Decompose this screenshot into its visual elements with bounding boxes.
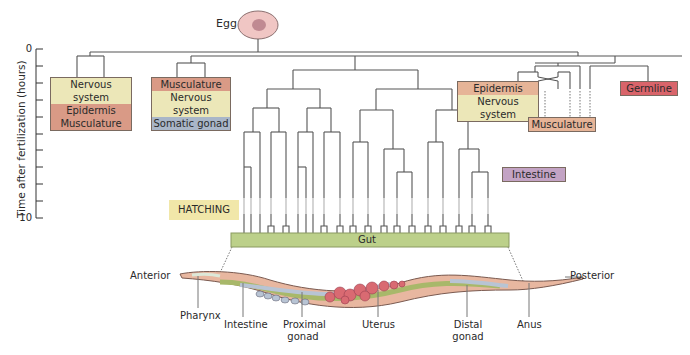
lineage-box-intestine: Intestine bbox=[502, 167, 566, 182]
worm-part-intestine: Intestine bbox=[224, 319, 268, 331]
gut-label: Gut bbox=[358, 234, 376, 246]
egg-icon bbox=[238, 11, 278, 39]
group2-somatic-gonad: Somatic gonad bbox=[152, 117, 230, 130]
worm-anterior-label: Anterior bbox=[130, 270, 170, 282]
group1-nervous-system: Nervous system bbox=[51, 78, 131, 104]
hatching-band bbox=[238, 198, 498, 214]
worm-posterior-label: Posterior bbox=[570, 270, 614, 282]
worm-part-anus: Anus bbox=[517, 319, 542, 331]
proximal-gonad-label: Proximal gonad bbox=[283, 319, 326, 342]
worm-part-proximal-gonad: Proximal gonad bbox=[283, 319, 323, 343]
lineage-box-germline: Germline bbox=[620, 81, 678, 96]
worm-illustration bbox=[180, 272, 583, 317]
group1-epidermis: Epidermis bbox=[51, 104, 131, 117]
lineage-box-group2: Musculature Nervous system Somatic gonad bbox=[151, 77, 231, 131]
worm-part-pharynx: Pharynx bbox=[180, 310, 221, 322]
hatching-label: HATCHING bbox=[169, 200, 239, 220]
egg-label: Egg bbox=[216, 18, 237, 30]
axis-tick-0: 0 bbox=[16, 43, 32, 54]
lineage-box-musculature: Musculature bbox=[528, 117, 596, 132]
group3-nervous-system: Nervous system bbox=[458, 95, 538, 121]
worm-part-uterus: Uterus bbox=[362, 319, 395, 331]
lineage-box-group1: Nervous system Epidermis Musculature bbox=[50, 77, 132, 131]
lineage-tree-diagram bbox=[0, 0, 690, 355]
group3-epidermis: Epidermis bbox=[458, 82, 538, 95]
group1-musculature: Musculature bbox=[51, 117, 131, 130]
lineage-box-group3: Epidermis Nervous system bbox=[457, 81, 539, 122]
distal-gonad-label: Distal gonad bbox=[452, 319, 483, 342]
time-axis bbox=[36, 49, 43, 218]
axis-title: Time after fertilization (hours) bbox=[15, 60, 27, 218]
group2-nervous-system: Nervous system bbox=[152, 91, 230, 117]
group2-musculature: Musculature bbox=[152, 78, 230, 91]
worm-part-distal-gonad: Distal gonad bbox=[452, 319, 484, 343]
